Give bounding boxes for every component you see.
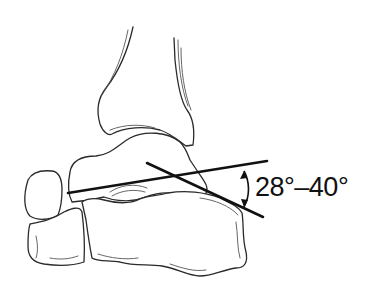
arrowhead-down-icon	[241, 199, 248, 207]
ankle-diagram	[0, 0, 387, 292]
calcaneus	[82, 192, 247, 276]
navicular	[25, 171, 62, 220]
angle-arc	[240, 171, 249, 207]
tibia	[98, 27, 194, 146]
angle-label: 28°–40°	[255, 172, 348, 203]
